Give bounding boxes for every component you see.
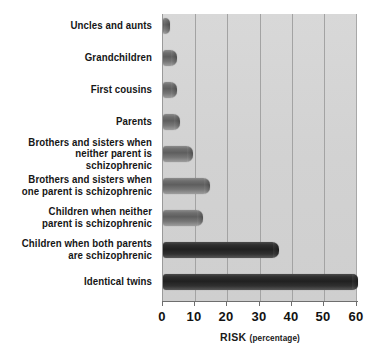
x-axis-title-main: RISK: [220, 331, 246, 343]
bar-cap: [164, 18, 170, 34]
bar-cap: [174, 114, 180, 130]
bar-children-both-parents: [163, 242, 279, 258]
bar-cap: [197, 210, 203, 226]
x-axis-line: [162, 301, 358, 302]
bar-siblings-one-parent: [163, 178, 210, 194]
category-label: Children when neither parent is schizoph…: [11, 204, 152, 232]
bar-cap: [204, 178, 210, 194]
category-label: Brothers and sisters when one parent is …: [11, 172, 152, 200]
bar-uncles-and-aunts: [163, 18, 170, 34]
tick-mark-60: [356, 301, 357, 306]
bar-children-neither-parent: [163, 210, 203, 226]
bar-cap: [171, 82, 177, 98]
gridline-40: [292, 14, 293, 301]
tick-mark-10: [194, 301, 195, 306]
bar-siblings-neither-parent: [163, 146, 193, 162]
tick-mark-40: [291, 301, 292, 306]
tick-label-20: 20: [211, 309, 241, 324]
tick-mark-0: [162, 301, 163, 306]
category-label: Children when both parents are schizophr…: [11, 236, 152, 264]
tick-label-30: 30: [244, 309, 274, 324]
tick-label-10: 10: [179, 309, 209, 324]
tick-mark-30: [259, 301, 260, 306]
tick-label-40: 40: [276, 309, 306, 324]
bar-cap: [352, 274, 358, 290]
category-label: First cousins: [11, 78, 152, 102]
tick-label-50: 50: [308, 309, 338, 324]
gridline-50: [324, 14, 325, 301]
bar-first-cousins: [163, 82, 177, 98]
bar-cap: [273, 242, 279, 258]
x-axis-title-unit: (percentage): [250, 334, 300, 343]
bar-grandchildren: [163, 50, 177, 66]
category-label: Brothers and sisters when neither parent…: [11, 140, 152, 168]
category-label: Uncles and aunts: [11, 14, 152, 38]
category-label-column: Uncles and aunts Grandchildren First cou…: [0, 14, 157, 301]
tick-label-60: 60: [341, 309, 371, 324]
bar-cap: [171, 50, 177, 66]
bar-cap: [187, 146, 193, 162]
plot-area: [162, 14, 357, 301]
x-axis-title: RISK (percentage): [162, 331, 358, 343]
tick-mark-50: [323, 301, 324, 306]
schizophrenia-risk-bar-chart: Uncles and aunts Grandchildren First cou…: [0, 0, 381, 353]
category-label: Grandchildren: [11, 46, 152, 70]
tick-label-0: 0: [147, 309, 177, 324]
category-label: Identical twins: [11, 270, 152, 294]
bar-parents: [163, 114, 180, 130]
bar-identical-twins: [163, 274, 358, 290]
tick-mark-20: [226, 301, 227, 306]
category-label: Parents: [11, 110, 152, 134]
gridline-60: [356, 14, 357, 301]
